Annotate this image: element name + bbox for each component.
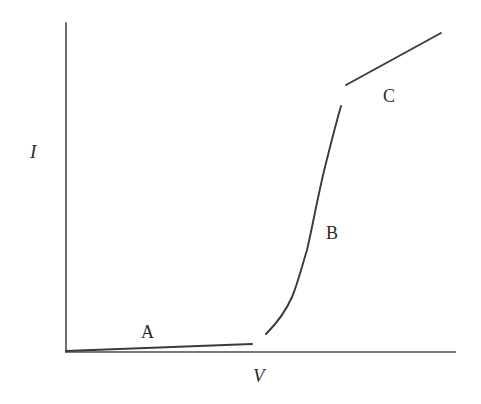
label-region-c: C bbox=[383, 87, 395, 105]
curve-segment-a bbox=[66, 344, 252, 351]
x-axis-title: V bbox=[253, 366, 265, 385]
curve-segment-b bbox=[266, 106, 341, 334]
chart-figure: I V A B C bbox=[0, 0, 481, 404]
label-region-a: A bbox=[141, 323, 154, 341]
label-region-b: B bbox=[326, 224, 338, 242]
curve-segment-c bbox=[346, 33, 441, 85]
y-axis-title: I bbox=[30, 142, 36, 161]
plot-area bbox=[0, 0, 481, 404]
